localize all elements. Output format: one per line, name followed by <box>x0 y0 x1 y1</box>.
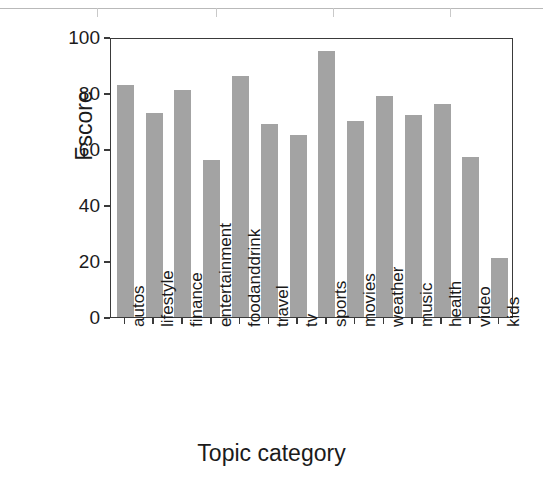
x-tick-mark <box>181 318 183 324</box>
x-tick-label-weather: weather <box>389 267 406 327</box>
x-tick-label-lifestyle: lifestyle <box>159 270 176 327</box>
y-tick-label: 0 <box>52 308 100 327</box>
x-tick-label-health: health <box>447 281 464 327</box>
x-tick-label-finance: finance <box>188 272 205 327</box>
x-tick-label-video: video <box>476 286 493 327</box>
scan-table-rule <box>0 8 543 9</box>
x-tick-label-entertainment: entertainment <box>217 223 234 327</box>
y-tick-mark <box>104 205 110 207</box>
x-tick-mark <box>152 318 154 324</box>
x-tick-label-travel: travel <box>274 285 291 327</box>
y-tick-mark <box>104 261 110 263</box>
x-tick-mark <box>124 318 126 324</box>
x-tick-mark <box>354 318 356 324</box>
y-tick-label: 100 <box>52 28 100 47</box>
x-axis-title: Topic category <box>0 440 543 467</box>
y-tick-mark <box>104 317 110 319</box>
y-tick-mark <box>104 37 110 39</box>
figure-page: Fscore 020406080100 autoslifestylefinanc… <box>0 0 543 486</box>
x-tick-mark <box>411 318 413 324</box>
x-tick-mark <box>325 318 327 324</box>
x-tick-label-tv: tv <box>303 314 320 327</box>
x-tick-label-movies: movies <box>361 273 378 327</box>
scan-rule-tick <box>450 8 451 17</box>
y-tick-label: 60 <box>52 140 100 159</box>
x-tick-label-foodanddrink: foodanddrink <box>246 229 263 327</box>
x-tick-mark <box>296 318 298 324</box>
bar-autos <box>117 85 134 317</box>
bar-tv <box>290 135 307 317</box>
x-tick-mark <box>383 318 385 324</box>
x-tick-mark <box>498 318 500 324</box>
bar-sports <box>318 51 335 317</box>
x-tick-mark <box>469 318 471 324</box>
y-tick-mark <box>104 149 110 151</box>
x-tick-mark <box>239 318 241 324</box>
y-tick-label: 80 <box>52 84 100 103</box>
x-tick-label-music: music <box>418 283 435 327</box>
y-tick-label: 20 <box>52 252 100 271</box>
y-tick-label: 40 <box>52 196 100 215</box>
x-tick-mark <box>210 318 212 324</box>
x-tick-label-sports: sports <box>332 281 349 327</box>
x-tick-mark <box>268 318 270 324</box>
x-tick-label-autos: autos <box>130 285 147 327</box>
x-tick-mark <box>440 318 442 324</box>
y-tick-mark <box>104 93 110 95</box>
x-tick-label-kids: kids <box>505 297 522 327</box>
scan-rule-tick <box>333 8 334 17</box>
scan-rule-tick <box>97 8 98 17</box>
scan-rule-tick <box>216 8 217 17</box>
y-axis-title: Fscore <box>71 36 98 216</box>
